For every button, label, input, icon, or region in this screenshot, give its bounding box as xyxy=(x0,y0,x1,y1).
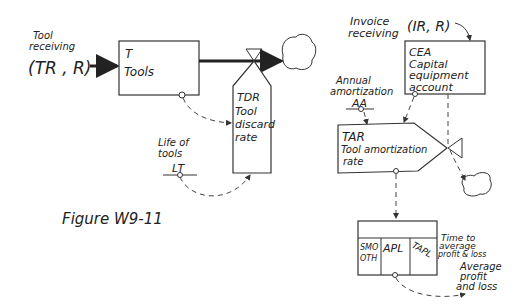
tdr-name-3: rate xyxy=(235,131,258,144)
tool-receiving-label-2: receiving xyxy=(29,41,75,52)
invoice-receiving-label-2: receiving xyxy=(348,27,399,40)
smooth-label-1: SMO xyxy=(360,243,378,252)
flow-diagram: Tool receiving (TR , R) T Tools TDR Tool… xyxy=(0,0,532,305)
tools-to-tdr-link xyxy=(183,98,231,123)
cloud-sink-icon xyxy=(282,34,316,69)
tar-valve-icon xyxy=(448,138,462,158)
invoice-receiving-equation: (IR, R) xyxy=(407,18,450,34)
cea-to-tar-link xyxy=(404,97,414,122)
apl-info-takeoff xyxy=(393,273,398,278)
tool-receiving-equation: (TR , R) xyxy=(28,58,91,78)
cloud-sink-2-icon xyxy=(462,173,491,196)
apl-label: APL xyxy=(382,242,403,255)
tools-info-takeoff xyxy=(179,92,185,98)
aa-info-takeoff xyxy=(359,107,364,112)
annual-amortization-label-2: amortization xyxy=(330,86,393,97)
tar-code: TAR xyxy=(342,130,365,144)
avg-profit-loss-3: and loss xyxy=(456,281,497,292)
tdr-name-2: discard xyxy=(235,118,276,131)
annual-amortization-label-1: Annual xyxy=(335,75,371,86)
life-of-tools-label-2: tools xyxy=(158,148,182,159)
tool-receiving-label-1: Tool xyxy=(33,30,53,41)
tdr-name-1: Tool xyxy=(235,105,257,118)
tools-name: Tools xyxy=(124,65,154,79)
figure-caption: Figure W9-11 xyxy=(62,210,163,228)
smooth-label-2: OTH xyxy=(360,254,377,263)
time-to-average-3: profit & loss xyxy=(437,250,486,259)
life-of-tools-label-1: Life of xyxy=(158,137,190,148)
tar-name-1: Tool amortization xyxy=(341,144,427,155)
tdr-code: TDR xyxy=(237,91,260,104)
apl-output-link xyxy=(396,278,465,296)
lt-to-tdr-link xyxy=(180,175,250,196)
cea-info-takeoff xyxy=(413,92,418,97)
invoice-to-cea-arrow xyxy=(455,23,470,40)
tar-info-takeoff xyxy=(394,169,399,174)
aa-to-tar-link xyxy=(364,112,367,124)
lt-info-takeoff xyxy=(178,173,183,178)
tar-name-2: rate xyxy=(343,156,363,167)
